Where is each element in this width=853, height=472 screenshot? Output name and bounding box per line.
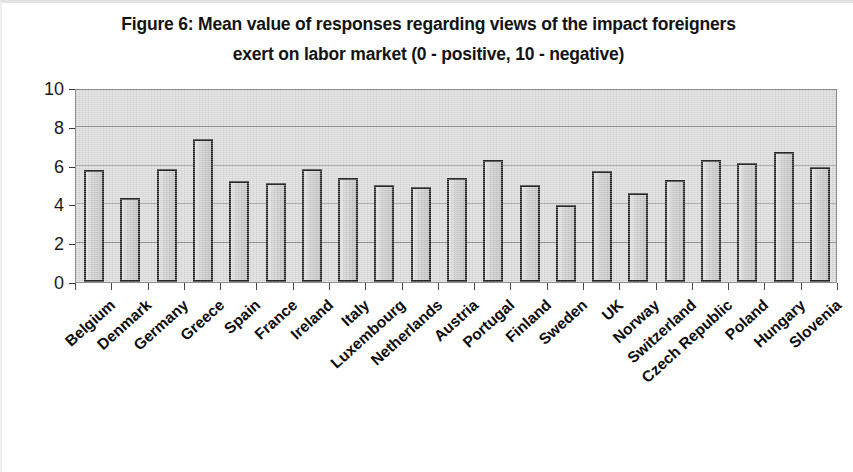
x-tick-mark-3 xyxy=(184,283,185,290)
bar-hungary xyxy=(774,152,794,282)
y-tick-label-10: 10 xyxy=(44,79,64,100)
bar-italy xyxy=(338,178,358,282)
x-tick-mark-19 xyxy=(764,283,765,290)
bar-uk xyxy=(592,171,612,282)
x-tick-mark-2 xyxy=(148,283,149,290)
bar-slovenia xyxy=(810,167,830,282)
y-axis: 0246810 xyxy=(2,89,75,285)
x-tick-mark-12 xyxy=(510,283,511,290)
x-tick-mark-4 xyxy=(220,283,221,290)
x-tick-mark-0 xyxy=(75,283,76,290)
x-tick-mark-5 xyxy=(256,283,257,290)
y-tick-label-4: 4 xyxy=(54,195,64,216)
bar-norway xyxy=(628,193,648,282)
bar-denmark xyxy=(120,198,140,282)
bar-belgium xyxy=(84,170,104,282)
bar-switzerland xyxy=(665,180,685,282)
chart-title-line-2: exert on labor market (0 - positive, 10 … xyxy=(2,39,853,69)
x-tick-mark-9 xyxy=(402,283,403,290)
bar-portugal xyxy=(483,160,503,282)
x-tick-mark-6 xyxy=(293,283,294,290)
y-tick-label-8: 8 xyxy=(54,117,64,138)
bar-finland xyxy=(520,185,540,282)
x-tick-mark-8 xyxy=(365,283,366,290)
chart-title-line-1: Figure 6: Mean value of responses regard… xyxy=(2,9,853,39)
bar-czech-republic xyxy=(701,160,721,282)
figure-container: Figure 6: Mean value of responses regard… xyxy=(0,0,853,472)
bar-greece xyxy=(193,139,213,282)
x-axis-labels: BelgiumDenmarkGermanyGreeceSpainFranceIr… xyxy=(2,290,853,440)
x-tick-mark-15 xyxy=(619,283,620,290)
y-tick-label-6: 6 xyxy=(54,156,64,177)
bar-austria xyxy=(447,178,467,282)
x-tick-mark-11 xyxy=(474,283,475,290)
chart-title: Figure 6: Mean value of responses regard… xyxy=(2,9,853,69)
x-tick-mark-20 xyxy=(801,283,802,290)
bar-series xyxy=(76,90,836,282)
x-axis-ticks xyxy=(75,283,837,290)
bar-france xyxy=(266,183,286,282)
bar-ireland xyxy=(302,169,322,282)
x-tick-mark-16 xyxy=(656,283,657,290)
x-tick-mark-21 xyxy=(837,283,838,290)
x-tick-mark-18 xyxy=(728,283,729,290)
bar-germany xyxy=(157,169,177,282)
bar-netherlands xyxy=(411,187,431,282)
plot-area xyxy=(75,89,837,283)
x-tick-mark-14 xyxy=(583,283,584,290)
bar-spain xyxy=(229,181,249,282)
x-tick-mark-7 xyxy=(329,283,330,290)
bar-poland xyxy=(737,163,757,282)
bar-sweden xyxy=(556,205,576,282)
x-tick-mark-17 xyxy=(692,283,693,290)
y-tick-label-2: 2 xyxy=(54,234,64,255)
x-tick-mark-13 xyxy=(547,283,548,290)
bar-luxembourg xyxy=(374,185,394,282)
x-tick-mark-10 xyxy=(438,283,439,290)
x-tick-mark-1 xyxy=(111,283,112,290)
